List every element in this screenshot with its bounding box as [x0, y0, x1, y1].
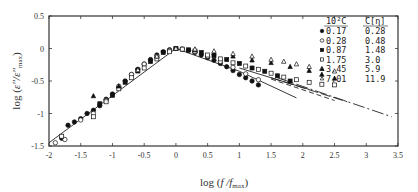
legend-entry-ceta: 0.48: [365, 36, 385, 46]
x-tick-label: -0.5: [138, 151, 151, 160]
marker-open-square: [320, 82, 324, 86]
marker-filled-square: [275, 74, 279, 78]
legend: 10²CC[η]0.170.280.280.480.871.481.753.03…: [320, 16, 388, 84]
marker-open-square: [333, 83, 337, 87]
legend-entry-c: 3.45: [326, 64, 346, 74]
marker-open-circle: [320, 39, 324, 43]
chart-container: -2-1.5-1-0.500.511.522.533.5-1.5-1-0.500…: [0, 0, 418, 192]
x-tick-label: 1: [237, 151, 241, 160]
x-tick-label: 0.5: [203, 151, 213, 160]
marker-open-triangle: [307, 64, 311, 68]
x-tick-label: 1.5: [266, 151, 276, 160]
marker-filled-square: [123, 80, 127, 84]
marker-filled-square: [320, 48, 323, 51]
marker-filled-triangle: [288, 64, 292, 68]
y-tick-label: -1: [37, 110, 44, 119]
fit-line: [49, 49, 296, 143]
marker-open-square: [104, 100, 108, 104]
legend-entry-ceta: 5.9: [365, 64, 380, 74]
series-7.01: [136, 46, 337, 73]
series-0.28: [53, 47, 260, 145]
marker-open-square: [206, 53, 210, 57]
axis-labels: log (f /fmax) log (ε''/ε''max): [10, 52, 248, 190]
marker-open-square: [218, 57, 222, 61]
marker-filled-triangle: [320, 72, 324, 76]
marker-open-triangle: [294, 62, 298, 66]
marker-open-square: [269, 71, 273, 75]
marker-open-circle: [79, 118, 83, 122]
marker-open-triangle: [320, 77, 324, 80]
marker-open-circle: [142, 62, 146, 66]
legend-entry-ceta: 11.9: [365, 74, 385, 84]
marker-open-circle: [244, 72, 248, 76]
marker-filled-triangle: [91, 94, 95, 98]
marker-open-square: [282, 75, 286, 79]
marker-open-square: [294, 78, 298, 82]
marker-filled-square: [199, 50, 203, 54]
series-3.45: [91, 46, 337, 98]
marker-filled-square: [161, 50, 165, 54]
marker-open-triangle: [250, 54, 254, 58]
marker-filled-square: [225, 58, 229, 62]
marker-filled-square: [250, 66, 254, 70]
x-axis-label: log (f /fmax): [200, 176, 248, 190]
marker-open-square: [142, 66, 146, 70]
marker-filled-square: [187, 48, 191, 52]
x-tick-label: -1.5: [74, 151, 87, 160]
marker-open-square: [256, 67, 260, 71]
legend-header-ceta: C[η]: [365, 16, 385, 26]
x-tick-label: 3.5: [393, 151, 403, 160]
x-tick-label: -2: [46, 151, 53, 160]
marker-filled-square: [263, 69, 267, 73]
marker-filled-square: [288, 79, 292, 83]
legend-entry-ceta: 1.48: [365, 45, 385, 55]
marker-open-triangle: [212, 49, 216, 53]
marker-open-square: [168, 50, 172, 54]
legend-entry-c: 7.01: [326, 74, 346, 84]
marker-open-square: [129, 76, 133, 80]
marker-filled-circle: [237, 72, 241, 76]
marker-filled-square: [237, 61, 241, 65]
marker-filled-square: [149, 60, 153, 64]
x-tick-label: 2.5: [330, 151, 340, 160]
marker-open-square: [231, 61, 235, 65]
marker-open-triangle: [282, 59, 286, 63]
axes: -2-1.5-1-0.500.511.522.533.5-1.5-1-0.500…: [31, 12, 403, 160]
y-tick-label: -0.5: [31, 77, 44, 86]
series-1.75: [60, 47, 337, 138]
marker-filled-circle: [212, 58, 216, 62]
marker-filled-circle: [72, 120, 76, 124]
marker-open-circle: [231, 65, 235, 69]
marker-filled-square: [98, 102, 102, 106]
marker-open-square: [60, 134, 64, 138]
plot-svg: -2-1.5-1-0.500.511.522.533.5-1.5-1-0.500…: [0, 0, 418, 192]
marker-filled-circle: [66, 123, 70, 127]
legend-entry-c: 1.75: [326, 55, 346, 65]
legend-entry-ceta: 0.28: [365, 26, 385, 36]
marker-filled-circle: [85, 111, 89, 115]
legend-entry-c: 0.87: [326, 45, 346, 55]
marker-open-circle: [256, 78, 260, 82]
x-tick-label: 2: [301, 151, 305, 160]
y-axis-label: log (ε''/ε''max): [10, 52, 24, 110]
marker-open-square: [180, 47, 184, 51]
legend-entry-c: 0.28: [326, 36, 346, 46]
marker-open-triangle: [231, 51, 235, 55]
y-tick-label: -1.5: [31, 142, 44, 151]
legend-header-c: 10²C: [326, 16, 346, 26]
marker-filled-circle: [224, 65, 228, 69]
x-tick-label: -1: [109, 151, 116, 160]
marker-open-triangle: [269, 57, 273, 61]
marker-open-circle: [53, 141, 57, 145]
marker-filled-square: [110, 93, 114, 97]
marker-filled-circle: [250, 79, 254, 83]
marker-open-square: [307, 80, 311, 84]
marker-open-square: [244, 64, 248, 68]
legend-entry-ceta: 3.0: [365, 55, 380, 65]
legend-entry-c: 0.17: [326, 26, 346, 36]
marker-filled-circle: [320, 29, 324, 33]
marker-open-square: [320, 58, 323, 61]
x-tick-label: 3: [364, 151, 368, 160]
data-points: [53, 46, 337, 145]
x-tick-label: 0: [174, 151, 178, 160]
